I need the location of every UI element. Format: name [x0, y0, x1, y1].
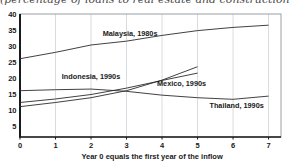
- line-chart: 01234567510152025303540Malaysia, 1980sIn…: [0, 0, 289, 163]
- series-line-thailand-1990s: [20, 89, 269, 99]
- y-tick-label: 15: [8, 90, 16, 99]
- x-tick-label: 7: [266, 141, 270, 150]
- x-tick-label: 1: [53, 141, 57, 150]
- y-tick-label: 20: [8, 74, 16, 83]
- y-tick-label: 25: [8, 58, 16, 67]
- y-tick-label: 40: [8, 10, 16, 19]
- x-tick-label: 3: [124, 141, 128, 150]
- x-tick-label: 4: [160, 141, 165, 150]
- y-tick-label: 10: [8, 106, 16, 115]
- y-tick-label: 30: [8, 42, 16, 51]
- x-tick-label: 5: [195, 141, 199, 150]
- x-tick-label: 2: [89, 141, 93, 150]
- x-axis-title: Year 0 equals the first year of the infl…: [81, 152, 222, 161]
- y-tick-label: 35: [8, 26, 16, 35]
- y-tick-label: 5: [12, 122, 16, 131]
- series-label-mexico-1990s: Mexico, 1990s: [157, 79, 206, 88]
- series-label-thailand-1990s: Thailand, 1990s: [209, 101, 263, 110]
- series-label-malaysia-1980s: Malaysia, 1980s: [103, 29, 158, 38]
- chart-figure: (percentage of loans to real estate and …: [0, 0, 289, 163]
- x-tick-label: 6: [231, 141, 235, 150]
- x-tick-label: 0: [18, 141, 22, 150]
- series-label-indonesia-1990s: Indonesia, 1990s: [62, 72, 120, 81]
